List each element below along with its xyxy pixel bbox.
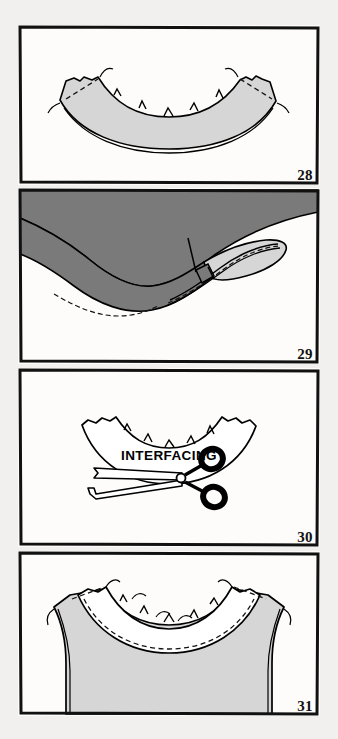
panel-number: 28 <box>297 168 313 183</box>
scissors-pivot <box>177 474 186 483</box>
panel-number: 31 <box>297 699 313 714</box>
panel-28: 28 <box>18 25 320 185</box>
panel-31-artwork <box>18 551 320 716</box>
panel-29: 29 <box>18 188 320 364</box>
illustration-page: 28 <box>0 0 338 739</box>
panel-30: INTERFACING 30 <box>18 368 320 547</box>
panel-28-artwork <box>18 25 320 185</box>
panel-30-artwork: INTERFACING <box>18 368 320 547</box>
facing-piece <box>60 76 276 153</box>
panel-29-artwork <box>18 188 320 364</box>
panel-31: 31 <box>18 551 320 716</box>
scissors-handle-lower <box>200 484 228 510</box>
panel-number: 30 <box>297 530 313 545</box>
panel-number: 29 <box>297 347 313 362</box>
